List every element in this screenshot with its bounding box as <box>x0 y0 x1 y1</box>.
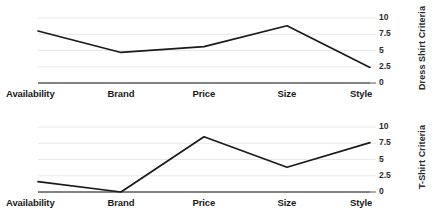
x-axis-category-label: Brand <box>108 88 135 99</box>
x-axis-category-label: Style <box>350 88 372 99</box>
chart-panel-dress-shirt: Dress Shirt Criteria 02.557.510Availabil… <box>0 0 434 109</box>
data-series-line <box>38 26 370 68</box>
x-axis-category-label: Price <box>193 88 216 99</box>
y-axis-tick-label: 10 <box>379 12 388 22</box>
x-axis-category-label: Availability <box>6 88 55 99</box>
y-axis-tick-label: 2.5 <box>379 61 391 71</box>
y-axis-tick-label: 7.5 <box>379 137 391 147</box>
y-axis-title-tshirt: T-Shirt Criteria <box>410 109 434 204</box>
chart-panel-tshirt: T-Shirt Criteria 02.557.510AvailabilityB… <box>0 109 434 218</box>
y-axis-tick-label: 7.5 <box>379 28 391 38</box>
chart-figure: Dress Shirt Criteria 02.557.510Availabil… <box>0 0 434 218</box>
y-axis-tick-label: 10 <box>379 121 388 131</box>
data-series-line <box>38 137 370 192</box>
y-axis-title-label-dress-shirt: Dress Shirt Criteria <box>417 5 427 89</box>
y-axis-tick-label: 0 <box>379 77 384 87</box>
x-axis-category-label: Style <box>350 197 372 208</box>
x-axis-category-label: Availability <box>6 197 55 208</box>
x-axis-category-label: Size <box>278 88 297 99</box>
x-axis-category-label: Brand <box>108 197 135 208</box>
y-axis-title-label-tshirt: T-Shirt Criteria <box>417 124 427 188</box>
y-axis-tick-label: 5 <box>379 154 384 164</box>
x-axis-category-label: Size <box>278 197 297 208</box>
y-axis-title-dress-shirt: Dress Shirt Criteria <box>410 0 434 95</box>
x-axis-category-label: Price <box>193 197 216 208</box>
y-axis-tick-label: 0 <box>379 186 384 196</box>
y-axis-tick-label: 5 <box>379 45 384 55</box>
y-axis-tick-label: 2.5 <box>379 170 391 180</box>
